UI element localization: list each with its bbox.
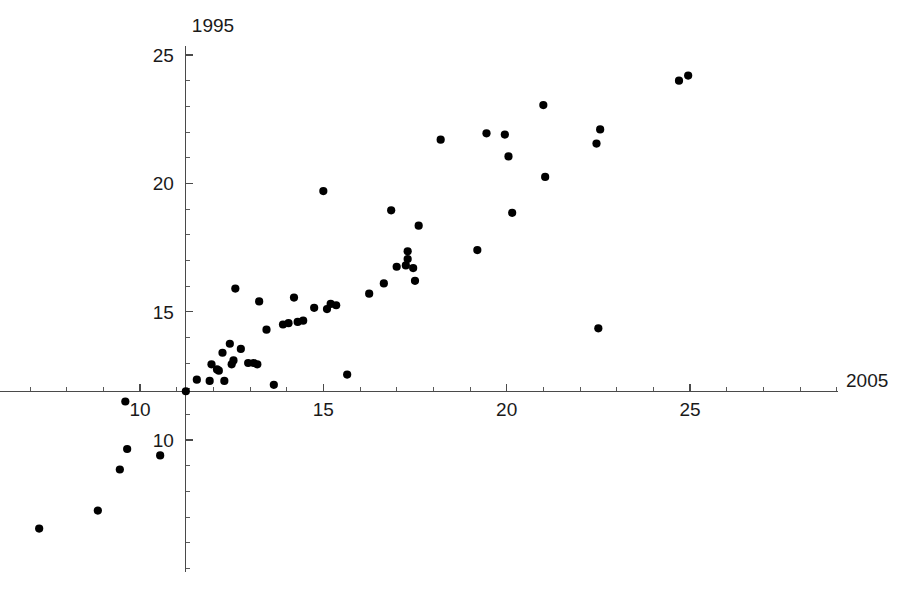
scatter-point	[473, 246, 481, 254]
scatter-point	[94, 506, 102, 514]
x-axis-tick-label: 25	[679, 399, 700, 420]
scatter-point	[393, 263, 401, 271]
scatter-point	[380, 279, 388, 287]
scatter-point	[123, 445, 131, 453]
scatter-plot-figure: 10152025 10152025 2005 1995	[0, 0, 904, 592]
x-axis-tick-labels: 10152025	[129, 399, 700, 420]
axis-lines-group	[0, 46, 838, 572]
y-axis-label: 1995	[192, 15, 234, 36]
y-axis-tick-label: 15	[153, 302, 174, 323]
scatter-point	[299, 317, 307, 325]
scatter-point	[229, 356, 237, 364]
y-axis-major-ticks	[186, 55, 193, 440]
scatter-point	[220, 377, 228, 385]
scatter-point	[404, 255, 412, 263]
scatter-point	[270, 381, 278, 389]
scatter-point	[206, 377, 214, 385]
y-axis-tick-label: 25	[153, 45, 174, 66]
scatter-point	[365, 290, 373, 298]
scatter-point	[193, 376, 201, 384]
y-axis-tick-labels: 10152025	[153, 45, 174, 451]
scatter-point	[255, 297, 263, 305]
scatter-point	[284, 319, 292, 327]
scatter-point	[319, 187, 327, 195]
scatter-point	[539, 101, 547, 109]
y-axis-minor-ticks	[186, 81, 190, 569]
scatter-point	[592, 139, 600, 147]
y-axis-tick-label: 20	[153, 173, 174, 194]
scatter-point	[541, 173, 549, 181]
x-axis-tick-label: 15	[313, 399, 334, 420]
scatter-point	[310, 304, 318, 312]
x-axis-major-ticks	[140, 384, 690, 391]
scatter-point	[684, 71, 692, 79]
x-axis-tick-label: 20	[496, 399, 517, 420]
x-axis-tick-label: 10	[129, 399, 150, 420]
scatter-point	[594, 324, 602, 332]
scatter-point	[343, 370, 351, 378]
scatter-point	[415, 222, 423, 230]
scatter-point	[508, 209, 516, 217]
x-axis-label: 2005	[846, 370, 888, 391]
scatter-point	[387, 206, 395, 214]
scatter-point	[675, 77, 683, 85]
scatter-point	[231, 284, 239, 292]
scatter-point	[116, 465, 124, 473]
scatter-point	[504, 152, 512, 160]
scatter-point	[411, 277, 419, 285]
scatter-point	[121, 397, 129, 405]
scatter-point	[404, 247, 412, 255]
scatter-point	[156, 451, 164, 459]
scatter-point	[35, 524, 43, 532]
scatter-point	[218, 349, 226, 357]
y-axis-tick-label: 10	[153, 430, 174, 451]
scatter-point	[409, 264, 417, 272]
plot-canvas: 10152025 10152025 2005 1995	[0, 0, 904, 592]
scatter-point	[501, 130, 509, 138]
scatter-point	[332, 301, 340, 309]
scatter-point	[215, 367, 223, 375]
scatter-point	[182, 387, 190, 395]
scatter-point	[596, 125, 604, 133]
scatter-point	[253, 360, 261, 368]
scatter-points-group	[35, 71, 692, 532]
x-axis-minor-ticks	[30, 387, 837, 391]
scatter-point	[237, 345, 245, 353]
scatter-point	[482, 129, 490, 137]
scatter-point	[437, 136, 445, 144]
scatter-point	[290, 293, 298, 301]
scatter-point	[262, 326, 270, 334]
scatter-point	[226, 340, 234, 348]
